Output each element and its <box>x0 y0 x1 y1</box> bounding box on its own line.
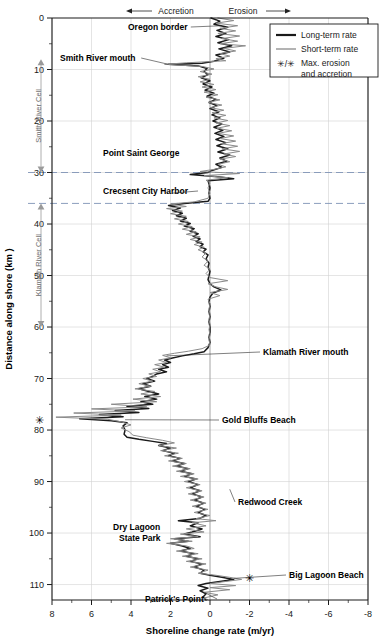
legend: Long-term rateShort-term rate✳/✳Max. ero… <box>270 24 378 79</box>
legend-label-max-erosion: Max. erosion <box>301 58 350 68</box>
y-tick-label: 110 <box>30 580 44 590</box>
legend-label-short-term: Short-term rate <box>301 44 358 54</box>
erosion-label: Erosion <box>229 6 258 16</box>
x-tick-label: -8 <box>364 609 372 619</box>
legend-swatch-max-markers: ✳/✳ <box>277 59 295 69</box>
legend-label-long-term: Long-term rate <box>301 30 357 40</box>
y-tick-label: 90 <box>34 477 44 487</box>
x-tick-label: 8 <box>49 609 54 619</box>
chart-canvas: 86420-2-4-6-80102030405060708090100110Sh… <box>0 0 385 643</box>
littoral-cells: Smith River CellKlamath River Cell <box>34 59 44 327</box>
annotation-label: Crecsent City Harbor <box>103 186 189 196</box>
x-tick-label: -2 <box>245 609 253 619</box>
annotation-label: Smith River mouth <box>60 53 136 63</box>
x-tick-label: 4 <box>128 609 133 619</box>
x-tick-label: 0 <box>207 609 212 619</box>
cell-arrow-up <box>38 203 45 209</box>
x-tick-label: 2 <box>168 609 173 619</box>
x-tick-label: -6 <box>324 609 332 619</box>
y-tick-label: 70 <box>34 374 44 384</box>
cell-name-label: Klamath River Cell <box>34 234 43 296</box>
annotation-label: Oregon border <box>128 22 188 32</box>
y-tick-label: 40 <box>34 219 44 229</box>
accretion-arrow-head <box>126 9 132 14</box>
direction-labels: AccretionErosion <box>126 6 291 16</box>
max-marker-max-accretion: ✳ <box>35 414 44 426</box>
y-tick-label: 0 <box>39 13 44 23</box>
x-tick-label: 6 <box>89 609 94 619</box>
y-axis-title: Distance along shore (km ) <box>3 248 14 369</box>
annotation-label: Klamath River mouth <box>263 347 349 357</box>
annotation-label: Point Saint George <box>103 148 180 158</box>
x-axis-title: Shoreline change rate (m/yr) <box>146 625 274 636</box>
y-tick-label: 100 <box>29 528 44 538</box>
accretion-label: Accretion <box>158 6 194 16</box>
y-tick-label: 10 <box>34 65 44 75</box>
annotation-label: Dry Lagoon <box>113 522 160 532</box>
shoreline-change-chart: 86420-2-4-6-80102030405060708090100110Sh… <box>0 0 385 643</box>
cell-name-label: Smith River Cell <box>34 89 43 143</box>
max-marker-max-erosion: ✳ <box>245 572 254 584</box>
annotation-label: State Park <box>119 533 161 543</box>
annotation-label: Redwood Creek <box>238 497 303 507</box>
x-tick-label: -4 <box>285 609 293 619</box>
y-tick-label: 80 <box>34 425 44 435</box>
legend-label-and-accretion: and accretion <box>301 69 352 79</box>
annotation-label: Patrick's Point <box>145 594 204 604</box>
erosion-arrow-head <box>285 9 291 14</box>
annotation-label: Gold Bluffs Beach <box>222 415 296 425</box>
cell-arrow-up <box>38 59 45 65</box>
x-axis-ticks: 86420-2-4-6-8 <box>49 600 372 619</box>
annotation-label: Big Lagoon Beach <box>289 570 364 580</box>
